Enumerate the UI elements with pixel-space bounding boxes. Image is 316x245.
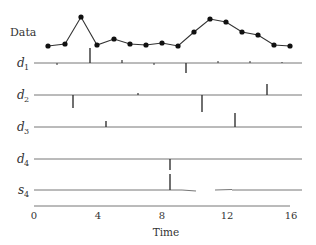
s4-series: [34, 174, 302, 191]
svg-text:2: 2: [24, 95, 29, 104]
row-label-data: Data: [10, 26, 37, 39]
d1-series: [34, 48, 302, 73]
row-label-d4: d 4: [17, 152, 29, 168]
d2-series: [34, 84, 302, 112]
x-tick-4: 4: [95, 210, 101, 221]
svg-text:4: 4: [24, 190, 29, 199]
svg-text:1: 1: [24, 63, 29, 72]
x-tick-12: 12: [221, 210, 234, 221]
row-label-d2: d 2: [17, 88, 29, 104]
wavelet-decomposition-chart: Data d 1 d 2 d 3 d 4 s 4: [0, 0, 316, 245]
svg-text:4: 4: [24, 159, 29, 168]
x-tick-8: 8: [159, 210, 165, 221]
x-axis-label: Time: [153, 226, 180, 238]
x-axis: 0 4 8 12 16 Time: [31, 206, 298, 238]
x-tick-16: 16: [285, 210, 298, 221]
d3-series: [34, 113, 302, 127]
d4-series: [34, 159, 302, 170]
row-label-d1: d 1: [17, 56, 29, 72]
row-label-d3: d 3: [17, 120, 29, 136]
row-label-s4: s 4: [18, 183, 29, 199]
svg-text:3: 3: [24, 127, 29, 136]
x-tick-0: 0: [31, 210, 37, 221]
data-series: [45, 14, 292, 48]
